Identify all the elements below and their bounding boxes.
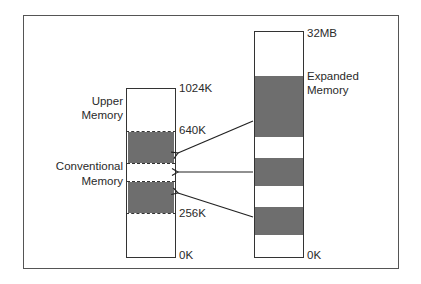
mapping-arrows (0, 0, 421, 284)
upper-memory-label-line2: Memory (81, 109, 123, 122)
label-256k: 256K (179, 207, 206, 220)
conventional-memory-label-line1: Conventional (56, 160, 123, 173)
expanded-memory-label-line1: Expanded (307, 70, 359, 83)
expanded-memory-label-line2: Memory (307, 84, 349, 97)
label-0k-right: 0K (307, 249, 321, 262)
upper-memory-label-line1: Upper (92, 95, 123, 108)
label-0k-left: 0K (179, 249, 193, 262)
label-32mb: 32MB (307, 27, 337, 40)
label-640k: 640K (179, 124, 206, 137)
label-1024k: 1024K (179, 82, 212, 95)
conventional-memory-label-line2: Memory (81, 175, 123, 188)
